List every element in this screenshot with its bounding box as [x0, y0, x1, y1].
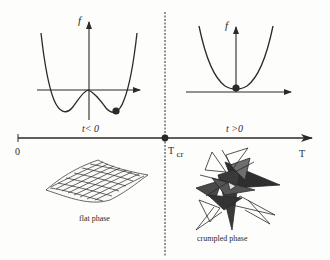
- left-ball: [112, 107, 119, 114]
- temperature-axis-label: T: [299, 149, 305, 159]
- right-condition-label: t >0: [226, 124, 243, 134]
- right-ball: [232, 84, 239, 91]
- temperature-axis: [18, 134, 312, 142]
- critical-temperature-label: T cr: [168, 146, 183, 156]
- phase-diagram: f t< 0 f t >0 0 T cr T flat phase crumpl…: [0, 0, 330, 260]
- critical-t-symbol: T: [168, 145, 174, 156]
- crumpled-phase-label: crumpled phase: [197, 235, 247, 243]
- right-f-axis-label: f: [225, 20, 228, 31]
- left-condition-label: t< 0: [82, 124, 99, 134]
- left-potential-plot: [37, 22, 140, 120]
- flat-phase-label: flat phase: [79, 215, 110, 223]
- crumpled-phase-shape: [196, 148, 280, 230]
- diagram-graphics: [0, 0, 330, 260]
- origin-label: 0: [15, 147, 20, 157]
- left-f-axis-label: f: [78, 15, 81, 26]
- critical-point-dot: [162, 135, 169, 142]
- right-potential-plot: [186, 26, 291, 92]
- critical-subscript: cr: [176, 149, 183, 159]
- flat-phase-mesh: [46, 160, 148, 202]
